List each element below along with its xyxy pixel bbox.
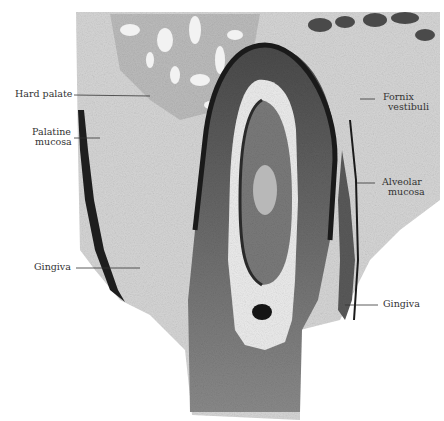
- label-gingiva-left: Gingiva: [34, 262, 71, 272]
- label-alveolar-mucosa-line2: mucosa: [388, 187, 425, 197]
- label-fornix-vestibuli-line2: vestibuli: [388, 102, 429, 112]
- label-gingiva-right: Gingiva: [383, 299, 420, 309]
- label-palatine-mucosa-line2: mucosa: [35, 137, 72, 147]
- histology-figure: Hard palate Palatine mucosa Gingiva Forn…: [0, 0, 444, 421]
- label-hard-palate: Hard palate: [15, 89, 72, 99]
- micrograph: [0, 0, 444, 421]
